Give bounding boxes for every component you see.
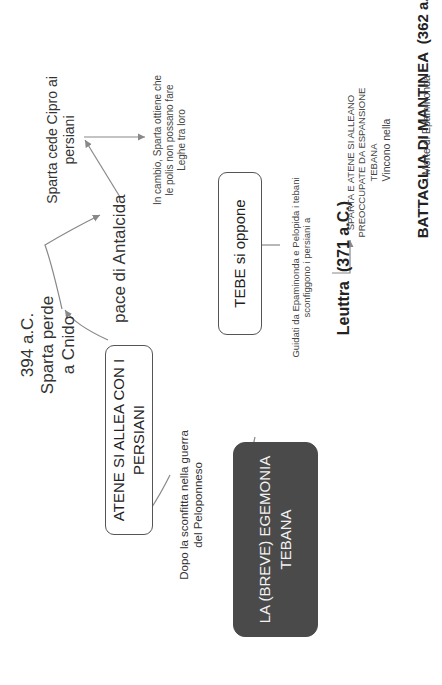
concept-map: LA (BREVE) EGEMONIA TEBANA Dopo la sconf…: [0, 0, 442, 685]
event-cnido-394: 394 a.C. Sparta perde a Cnido: [18, 290, 79, 400]
root-node-theban-hegemony: LA (BREVE) EGEMONIA TEBANA: [233, 442, 318, 637]
root-label: LA (BREVE) EGEMONIA TEBANA: [255, 455, 296, 625]
description-epaminondas: Guidati da Epaminonda e Pelopida i teban…: [290, 170, 313, 365]
result-intro: Vincono nella: [380, 95, 393, 205]
reaction-sparta-athens-alliance: SPARTA E ATENE SI ALLEANO PREOCCUPATE DA…: [345, 75, 379, 250]
event-peace-antalcida: pace di Antalcida: [110, 203, 130, 323]
outcome-cyprus-ceded: Sparta cede Cipro ai persiani: [44, 75, 78, 205]
note-death-epaminondas: - Morte di Epaminonda -: [420, 55, 433, 195]
node-thebes-opposes: TEBE si oppone: [218, 172, 262, 335]
node-athens-allies-persians: ATENE SI ALLEA CON I PERSIANI: [105, 345, 153, 535]
consequence-no-leagues: In cambio, Sparta ottiene che le polis n…: [152, 70, 188, 210]
connector-label-peloponnese: Dopo la sconfitta nella guerra del Pelop…: [178, 430, 206, 580]
battle-mantinea: BATTAGLIA DI MANTINEA (362 a.C.): [396, 5, 442, 255]
